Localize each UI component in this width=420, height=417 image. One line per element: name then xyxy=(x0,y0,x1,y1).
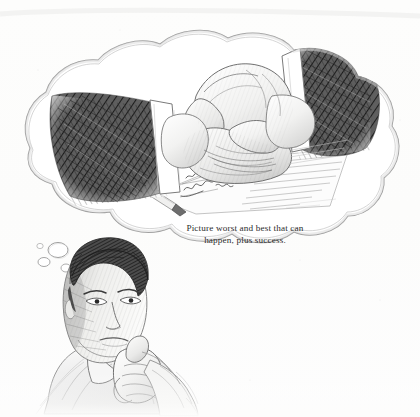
trail-bubble-tiny xyxy=(37,243,43,248)
trail-bubble-medium xyxy=(38,258,50,267)
bottom-fade xyxy=(0,372,420,417)
pencil-sketch-illustration xyxy=(0,0,420,417)
illustration-canvas: Picture worst and best that can happen, … xyxy=(0,0,420,417)
